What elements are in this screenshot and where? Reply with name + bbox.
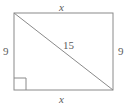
label-right-side: 9 <box>118 46 124 57</box>
right-angle-marker-icon <box>14 78 26 90</box>
figure-canvas <box>0 0 127 108</box>
label-diagonal: 15 <box>63 40 74 51</box>
label-bottom-side: x <box>59 94 64 105</box>
geometry-figure: x x 9 9 15 <box>0 0 127 108</box>
label-left-side: 9 <box>3 46 9 57</box>
label-top-side: x <box>59 2 64 13</box>
diagonal-line <box>14 13 113 90</box>
